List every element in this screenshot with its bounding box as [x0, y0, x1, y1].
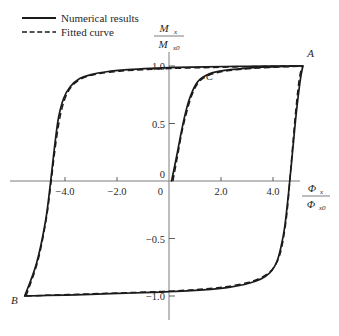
x-axis-title-numerator: Φ [308, 182, 317, 194]
y-axis-tick-label: 0 [160, 169, 165, 180]
y-axis-title-numerator-subscript: x [173, 28, 178, 36]
x-axis-title-denominator: Φ [307, 198, 316, 210]
y-axis-tick-label: −0.5 [146, 234, 165, 245]
chart-curve-minor-ascending-branch-fit [173, 66, 299, 181]
y-axis-title-denominator-subscript: x0 [172, 44, 180, 52]
x-axis-tick-label: −4.0 [55, 186, 74, 197]
chart-canvas: Numerical results Fitted curve −4.0−2.00… [0, 0, 339, 336]
legend-label-fitted-curve: Fitted curve [61, 26, 114, 38]
chart-curve-minor-ascending-branch [172, 66, 299, 181]
x-axis-title-denominator-subscript: x0 [318, 204, 326, 212]
annotation-label-B: B [11, 294, 18, 306]
annotation-label-C: C [206, 70, 214, 82]
hysteresis-chart-figure: Numerical results Fitted curve −4.0−2.00… [0, 0, 339, 336]
x-axis-tick-label: 0 [158, 186, 163, 197]
y-axis-title-numerator: M [158, 22, 169, 34]
x-axis-ticks: −4.0−2.002.04.0 [55, 177, 279, 197]
x-axis-tick-label: −2.0 [107, 186, 126, 197]
x-axis-tick-label: 2.0 [214, 186, 227, 197]
y-axis-tick-label: 1.0 [152, 61, 165, 72]
y-axis-title: M x M x0 [154, 22, 184, 52]
chart-legend: Numerical results Fitted curve [22, 12, 139, 38]
y-axis-title-denominator: M [157, 38, 168, 50]
x-axis-title-numerator-subscript: x [319, 188, 324, 196]
y-axis-tick-label: 0.5 [152, 119, 165, 130]
legend-label-numerical-results: Numerical results [61, 12, 139, 24]
x-axis-tick-label: 4.0 [266, 186, 279, 197]
annotation-label-A: A [306, 47, 314, 59]
x-axis-title: Φ x Φ x0 [302, 182, 330, 212]
